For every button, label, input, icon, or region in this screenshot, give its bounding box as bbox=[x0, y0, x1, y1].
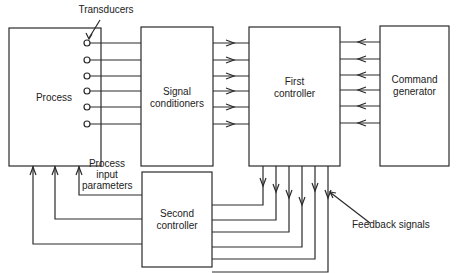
conditioned-signal-lines bbox=[213, 40, 249, 127]
process-label: Process bbox=[24, 92, 84, 103]
first-controller-label-1: First bbox=[249, 76, 340, 87]
second-controller-label-2: controller bbox=[142, 220, 212, 231]
process-input-label-2: input bbox=[82, 169, 132, 180]
process-input-label-1: Process bbox=[82, 158, 132, 169]
feedback-signals-label: Feedback signals bbox=[352, 219, 442, 230]
block-diagram bbox=[0, 0, 458, 273]
first-controller-label-2: controller bbox=[249, 88, 340, 99]
first-to-second-lines bbox=[212, 166, 331, 272]
process-input-label-3: parameters bbox=[82, 180, 132, 191]
command-generator-label-2: generator bbox=[380, 86, 449, 97]
command-lines bbox=[340, 39, 380, 126]
transducer-lines bbox=[84, 40, 141, 127]
command-generator-label-1: Command bbox=[380, 74, 449, 85]
signal-conditioners-label-2: conditioners bbox=[141, 98, 213, 109]
signal-conditioners-label-1: Signal bbox=[141, 86, 213, 97]
transducers-label: Transducers bbox=[76, 4, 136, 15]
second-controller-label-1: Second bbox=[142, 208, 212, 219]
